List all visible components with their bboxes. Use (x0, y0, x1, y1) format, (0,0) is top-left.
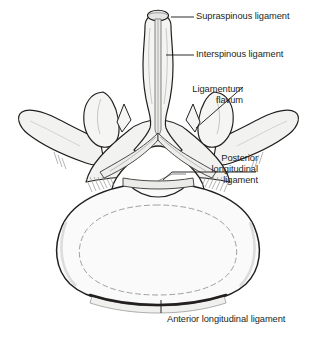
label-anterior-longitudinal-ligament: Anterior longitudinal ligament (167, 314, 285, 325)
interspinous-ligament (155, 19, 161, 138)
anatomical-figure: Supraspinous ligament Interspinous ligam… (0, 0, 317, 338)
label-interspinous-ligament: Interspinous ligament (196, 49, 283, 60)
vertebral-body (57, 183, 260, 306)
label-supraspinous-ligament: Supraspinous ligament (196, 11, 290, 22)
label-ligamentum-flavum: Ligamentum flavum (143, 84, 243, 106)
label-posterior-longitudinal-ligament: Posterior longitudinal ligament (158, 153, 258, 187)
